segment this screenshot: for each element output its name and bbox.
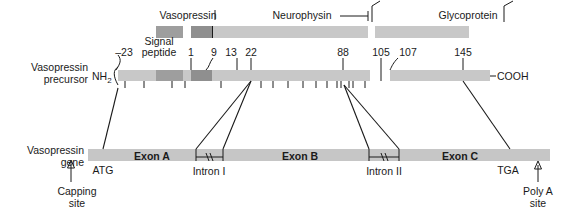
leader-9 (206, 58, 213, 70)
polya-site-arrow-head (535, 161, 542, 169)
residue-number-88: 88 (337, 47, 349, 58)
precursor-row-label-line1: Vasopressin (31, 62, 88, 73)
n-terminus-subscript: 2 (107, 76, 111, 85)
connector-intron-ii-right (344, 85, 399, 149)
leader-107 (390, 58, 398, 70)
bracket-diagonal-neurophysin-right (372, 1, 380, 6)
peptide-bar-neurophysin-body (213, 26, 368, 38)
residue-number-9: 9 (211, 47, 217, 58)
precursor-n-terminus: NH2 (92, 71, 112, 86)
gene-exon-b-label: Exon B (282, 151, 318, 162)
gene-row-label-line2: gene (61, 157, 84, 168)
precursor-residue-ticks (125, 81, 365, 88)
residue-number-107: 107 (399, 47, 417, 58)
residue-number-145: 145 (454, 47, 472, 58)
connector-intron-i-right (223, 81, 251, 149)
capping-site-label-line2: site (69, 198, 85, 209)
residue-number-1: 1 (188, 47, 194, 58)
n-terminus-text: NH (92, 70, 107, 82)
peptide-bar-glycoprotein (375, 26, 469, 38)
peptide-label-neurophysin: Neurophysin (273, 10, 332, 21)
precursor-bar-glycoprotein (390, 70, 490, 81)
residue-number-105: 105 (372, 47, 390, 58)
capping-site-label-line1: Capping (57, 186, 96, 197)
connector-intron-ii-left (344, 85, 369, 149)
peptide-bar-neurophysin-head (191, 26, 212, 38)
polya-site-label-line2: site (530, 198, 546, 209)
residue-number-13: 13 (225, 47, 237, 58)
residue-number--23: –23 (115, 47, 133, 58)
peptide-label-vasopressin: Vasopressin (159, 10, 216, 21)
figure-canvas: Vasopressin Neurophysin Glycoprotein Vas… (0, 0, 571, 222)
connector-intron-i-left (196, 81, 251, 149)
gene-exon-c-label: Exon C (442, 151, 478, 162)
signal-peptide-label-line2: peptide (142, 47, 176, 58)
precursor-row-label-line2: precursor (44, 74, 88, 85)
connector-atg (103, 88, 118, 149)
bracket-leg-glycoprotein-right (504, 1, 513, 22)
gene-row-label-line1: Vasopressin (27, 145, 84, 156)
precursor-bar-neurophysin-body (212, 70, 370, 81)
gene-intron-ii-label: Intron II (366, 166, 402, 177)
residue-number-22: 22 (245, 47, 257, 58)
gene-stop-codon-label: TGA (497, 165, 519, 176)
peptide-label-glycoprotein: Glycoprotein (439, 10, 498, 21)
precursor-bar-vasopressin (156, 70, 183, 81)
precursor-bar-neurophysin-head (191, 70, 212, 81)
gene-start-codon-label: ATG (93, 165, 114, 176)
gene-intron-i-label: Intron I (193, 166, 226, 177)
gene-exon-a-label: Exon A (134, 151, 170, 162)
connector-tga (463, 81, 510, 149)
polya-site-label-line1: Poly A (523, 186, 553, 197)
precursor-c-terminus: COOH (497, 71, 529, 82)
